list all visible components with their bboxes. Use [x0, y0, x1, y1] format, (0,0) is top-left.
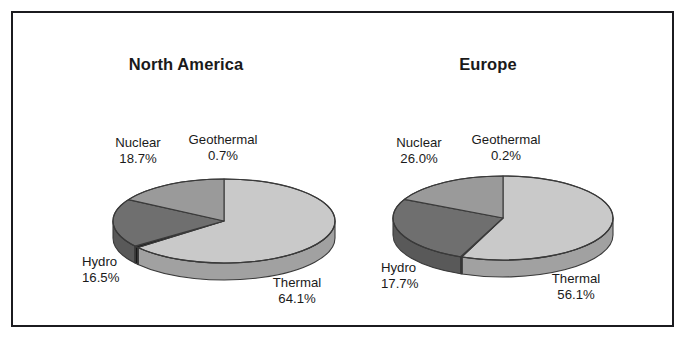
slice-label-thermal-eu-name: Thermal	[531, 271, 621, 287]
figure-canvas: North America Nuclear 18.7% Geothermal 0…	[0, 0, 687, 348]
slice-label-geothermal-na: Geothermal 0.7%	[173, 132, 273, 164]
slice-label-geothermal-eu-name: Geothermal	[456, 132, 556, 148]
figure-border: North America Nuclear 18.7% Geothermal 0…	[11, 11, 674, 327]
pie-chart-europe: Europe Nuclear 26.0% Geothermal 0.2% Hyd…	[313, 13, 643, 325]
slice-label-nuclear-eu-value: 26.0%	[383, 151, 455, 167]
slice-label-nuclear-na: Nuclear 18.7%	[102, 135, 174, 167]
slice-label-hydro-eu-name: Hydro	[381, 260, 461, 276]
slice-label-nuclear-na-value: 18.7%	[102, 151, 174, 167]
slice-label-geothermal-na-value: 0.7%	[173, 148, 273, 164]
pie-chart-north-america: North America Nuclear 18.7% Geothermal 0…	[27, 13, 357, 325]
slice-label-hydro-na: Hydro 16.5%	[82, 254, 162, 286]
slice-label-nuclear-eu: Nuclear 26.0%	[383, 135, 455, 167]
slice-label-hydro-na-name: Hydro	[82, 254, 162, 270]
slice-label-thermal-eu-value: 56.1%	[531, 287, 621, 303]
slice-label-nuclear-na-name: Nuclear	[102, 135, 174, 151]
slice-label-geothermal-eu: Geothermal 0.2%	[456, 132, 556, 164]
slice-label-hydro-eu-value: 17.7%	[381, 276, 461, 292]
slice-label-nuclear-eu-name: Nuclear	[383, 135, 455, 151]
slice-label-thermal-eu: Thermal 56.1%	[531, 271, 621, 303]
slice-label-hydro-na-value: 16.5%	[82, 270, 162, 286]
slice-label-geothermal-eu-value: 0.2%	[456, 148, 556, 164]
slice-label-hydro-eu: Hydro 17.7%	[381, 260, 461, 292]
slice-label-geothermal-na-name: Geothermal	[173, 132, 273, 148]
